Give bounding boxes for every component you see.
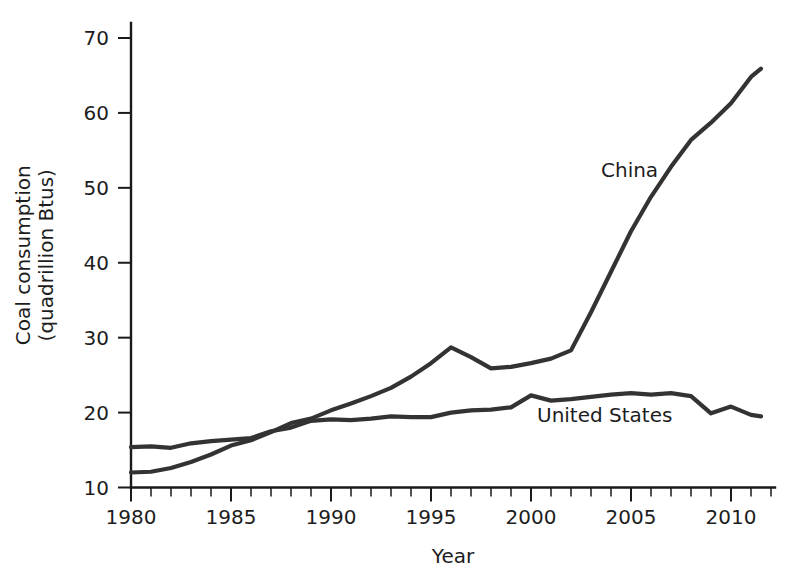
y-tick-label: 60: [84, 101, 109, 125]
x-axis-tick-labels: 1980198519901995200020052010: [106, 505, 757, 529]
x-tick-label: 1990: [306, 505, 357, 529]
x-axis-title: Year: [431, 544, 475, 568]
x-tick-label: 2005: [606, 505, 657, 529]
x-tick-label: 1980: [106, 505, 157, 529]
x-tick-label: 1985: [206, 505, 257, 529]
series-label-united-states: United States: [537, 403, 672, 427]
y-tick-label: 70: [84, 26, 109, 50]
x-axis-major-ticks: [131, 488, 731, 502]
y-axis-title: Coal consumption (quadrillion Btus): [11, 165, 58, 345]
y-axis-ticks: [118, 38, 131, 488]
y-axis-tick-labels: 10203040506070: [84, 26, 109, 500]
series-label-china: China: [601, 158, 658, 182]
y-axis-title-line2: (quadrillion Btus): [34, 169, 58, 341]
y-tick-label: 20: [84, 401, 109, 425]
y-tick-label: 30: [84, 326, 109, 350]
x-tick-label: 2000: [506, 505, 557, 529]
y-tick-label: 50: [84, 176, 109, 200]
y-axis-title-line1: Coal consumption: [11, 165, 35, 345]
y-tick-label: 10: [84, 476, 109, 500]
chart-figure: 10203040506070 1980198519901995200020052…: [0, 0, 806, 568]
line-chart-canvas: 10203040506070 1980198519901995200020052…: [0, 0, 806, 568]
x-tick-label: 2010: [706, 505, 757, 529]
x-tick-label: 1995: [406, 505, 457, 529]
y-tick-label: 40: [84, 251, 109, 275]
x-axis-minor-ticks: [151, 488, 771, 497]
